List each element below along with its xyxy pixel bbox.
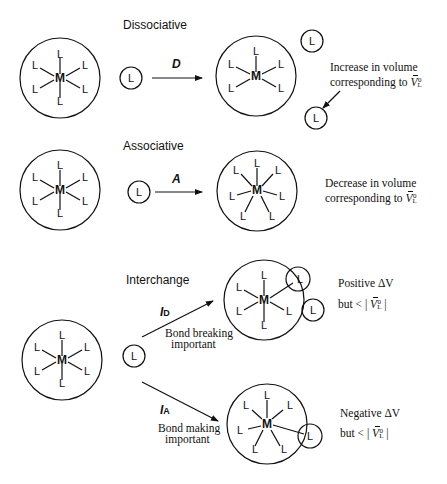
label-a: A — [172, 173, 181, 185]
svg-text:L: L — [136, 186, 142, 198]
svg-text:L: L — [307, 430, 313, 442]
svg-text:M: M — [259, 293, 269, 307]
svg-text:L: L — [278, 58, 284, 70]
svg-text:L: L — [278, 82, 284, 94]
svg-text:L: L — [59, 377, 65, 389]
svg-text:L: L — [84, 341, 90, 353]
svg-text:L: L — [281, 443, 287, 455]
svg-text:L: L — [228, 58, 234, 70]
svg-text:L: L — [261, 319, 267, 331]
label-d: D — [172, 58, 181, 70]
svg-text:L: L — [82, 83, 88, 95]
svg-text:M: M — [251, 69, 261, 83]
svg-text:L: L — [57, 159, 63, 171]
svg-text:L: L — [128, 72, 134, 84]
svg-text:L: L — [82, 171, 88, 183]
svg-text:L: L — [310, 304, 316, 316]
svg-text:M: M — [57, 353, 67, 367]
svg-text:L: L — [131, 350, 137, 362]
svg-text:L: L — [286, 305, 292, 317]
svg-text:L: L — [236, 305, 242, 317]
svg-text:M: M — [262, 417, 272, 431]
svg-text:L: L — [34, 365, 40, 377]
svg-text:L: L — [254, 157, 260, 169]
label-id: ID — [160, 306, 170, 318]
svg-text:L: L — [84, 365, 90, 377]
svg-text:L: L — [57, 95, 63, 107]
caption-id-line2: important — [171, 339, 216, 351]
note-ia-line2: but < | V0L | — [340, 428, 389, 440]
svg-text:M: M — [55, 71, 65, 85]
note-ia-line1: Negative ΔV — [340, 408, 400, 420]
svg-text:L: L — [228, 82, 234, 94]
svg-text:L: L — [34, 341, 40, 353]
svg-text:L: L — [59, 329, 65, 341]
svg-text:L: L — [313, 112, 319, 124]
svg-text:L: L — [309, 35, 315, 47]
heading-associative: Associative — [123, 140, 184, 152]
label-ia: IA — [160, 404, 170, 416]
svg-text:M: M — [55, 183, 65, 197]
svg-text:L: L — [233, 164, 239, 176]
svg-text:L: L — [279, 190, 285, 202]
caption-ia-line2: important — [165, 434, 210, 446]
pointer-arrow — [323, 91, 340, 108]
arrow-ia — [142, 382, 218, 421]
svg-text:L: L — [236, 281, 242, 293]
svg-text:L: L — [82, 195, 88, 207]
svg-text:L: L — [240, 210, 246, 222]
note-a-line1: Decrease in volume — [325, 178, 416, 190]
svg-text:L: L — [275, 164, 281, 176]
heading-interchange: Interchange — [126, 274, 189, 286]
svg-text:L: L — [297, 273, 303, 285]
svg-text:L: L — [57, 207, 63, 219]
svg-text:L: L — [57, 48, 63, 60]
svg-text:L: L — [82, 59, 88, 71]
svg-text:L: L — [237, 424, 243, 436]
svg-text:L: L — [229, 190, 235, 202]
svg-text:L: L — [264, 389, 270, 401]
svg-text:L: L — [32, 171, 38, 183]
svg-text:L: L — [32, 195, 38, 207]
svg-text:L: L — [261, 269, 267, 281]
svg-text:L: L — [32, 59, 38, 71]
svg-text:L: L — [287, 399, 293, 411]
heading-dissociative: Dissociative — [123, 19, 187, 31]
note-id-line2: but < | V0L | — [338, 299, 387, 311]
svg-text:L: L — [252, 443, 258, 455]
svg-text:L: L — [269, 210, 275, 222]
svg-text:L: L — [253, 45, 259, 57]
svg-text:M: M — [252, 183, 262, 197]
svg-text:L: L — [32, 83, 38, 95]
note-a-line2: corresponding to V0L — [325, 193, 417, 205]
note-d-line1: Increase in volume — [330, 62, 418, 74]
svg-text:L: L — [243, 399, 249, 411]
note-id-line1: Positive ΔV — [338, 278, 394, 290]
note-d-line2: corresponding to V0L — [330, 77, 422, 89]
